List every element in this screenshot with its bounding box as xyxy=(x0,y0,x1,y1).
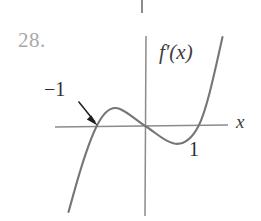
problem-number: 28. xyxy=(18,30,46,51)
curve-label: f'(x) xyxy=(159,42,193,63)
callout-arrowhead xyxy=(87,115,98,125)
x-axis-label: x xyxy=(236,112,244,131)
root-label-negative-one: −1 xyxy=(44,79,65,99)
figure-canvas: 28. f'(x) −1 1 x xyxy=(0,0,261,221)
x-axis xyxy=(55,125,228,127)
root-label-one: 1 xyxy=(189,139,199,159)
